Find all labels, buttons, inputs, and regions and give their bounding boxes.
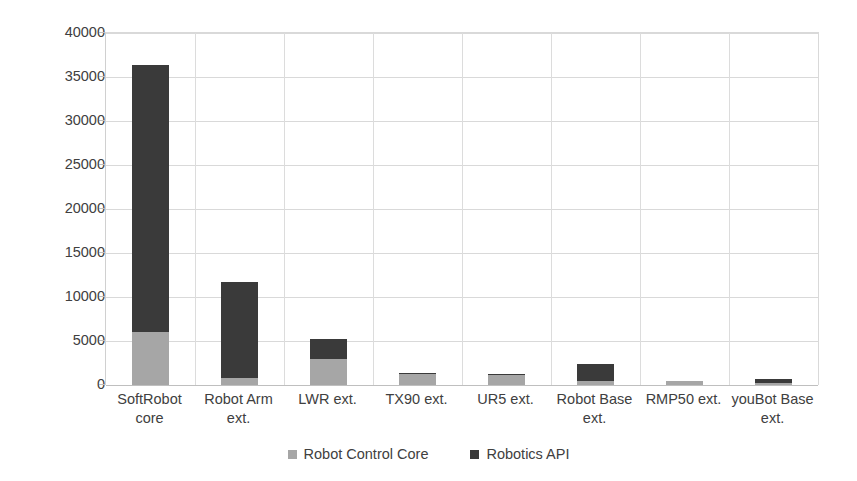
bar-column xyxy=(310,339,347,385)
bar-column xyxy=(488,374,525,385)
legend-swatch-icon xyxy=(470,450,479,459)
bar-segment xyxy=(221,282,258,377)
y-axis-tick-label: 30000 xyxy=(13,113,105,128)
x-axis-category-label: youBot Baseext. xyxy=(728,390,817,428)
bar-segment xyxy=(132,65,169,333)
x-axis-category-label: RMP50 ext. xyxy=(639,390,728,409)
y-axis-tick-label: 10000 xyxy=(13,289,105,304)
y-axis-tick-label: 40000 xyxy=(13,25,105,40)
category-separator xyxy=(640,33,641,385)
bar-column xyxy=(399,373,436,385)
y-axis: 0500010000150002000025000300003500040000 xyxy=(0,0,105,481)
x-axis-category-label: LWR ext. xyxy=(283,390,372,409)
y-axis-tick-label: 35000 xyxy=(13,69,105,84)
y-axis-tick-label: 25000 xyxy=(13,157,105,172)
category-separator xyxy=(373,33,374,385)
bar-segment xyxy=(132,332,169,385)
bar-segment xyxy=(310,339,347,359)
category-separator xyxy=(729,33,730,385)
bar-segment xyxy=(310,359,347,385)
bar-column xyxy=(577,364,614,385)
x-axis-category-label: Robot Baseext. xyxy=(550,390,639,428)
category-separator xyxy=(284,33,285,385)
bar-segment xyxy=(755,383,792,385)
bar-segment xyxy=(577,381,614,385)
plot-area xyxy=(105,32,819,385)
bar-segment xyxy=(399,374,436,385)
gridline xyxy=(106,385,818,386)
bar-chart: 0500010000150002000025000300003500040000… xyxy=(0,0,857,481)
bar-column xyxy=(666,381,703,385)
x-axis-category-label: TX90 ext. xyxy=(372,390,461,409)
bar-segment xyxy=(488,375,525,385)
bar-column xyxy=(755,379,792,385)
legend-label: Robot Control Core xyxy=(304,446,429,462)
x-axis-category-label: Robot Armext. xyxy=(194,390,283,428)
category-separator xyxy=(462,33,463,385)
bar-segment xyxy=(666,381,703,385)
legend-label: Robotics API xyxy=(486,446,569,462)
bar-column xyxy=(132,65,169,385)
category-separator xyxy=(195,33,196,385)
x-axis-category-label: UR5 ext. xyxy=(461,390,550,409)
y-axis-tick-label: 5000 xyxy=(13,333,105,348)
category-separator xyxy=(551,33,552,385)
y-axis-tick-label: 15000 xyxy=(13,245,105,260)
chart-legend: Robot Control CoreRobotics API xyxy=(0,446,857,462)
bar-column xyxy=(221,282,258,385)
legend-entry[interactable]: Robot Control Core xyxy=(288,446,429,462)
x-axis-category-label: SoftRobotcore xyxy=(105,390,194,428)
y-axis-tick-label: 0 xyxy=(13,377,105,392)
y-axis-tick-label: 20000 xyxy=(13,201,105,216)
x-axis: SoftRobotcoreRobot Armext.LWR ext.TX90 e… xyxy=(105,390,817,438)
legend-entry[interactable]: Robotics API xyxy=(470,446,569,462)
legend-swatch-icon xyxy=(288,450,297,459)
bar-segment xyxy=(577,364,614,381)
bar-segment xyxy=(221,378,258,385)
